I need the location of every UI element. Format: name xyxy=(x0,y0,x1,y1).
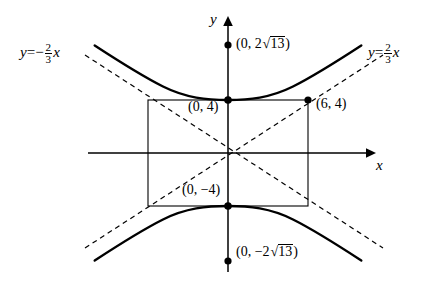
focus-bottom-radical: √13 xyxy=(270,244,294,259)
focus-top-prefix: (0, 2 xyxy=(236,36,262,51)
point-vertex-bottom xyxy=(224,202,232,210)
focus-bottom-prefix: (0, −2 xyxy=(236,244,270,259)
asymptote-left-fraction: 2 3 xyxy=(45,42,53,66)
asymptote-right-numerator: 2 xyxy=(384,42,392,53)
focus-top-label: (0, 2√13) xyxy=(236,36,290,51)
focus-bottom-suffix: ) xyxy=(293,244,298,259)
point-focus-top xyxy=(224,41,231,48)
y-axis-arrowhead xyxy=(223,16,233,26)
asymptote-left-lhs: y xyxy=(20,44,27,60)
asymptote-left-numerator: 2 xyxy=(45,42,53,53)
focus-top-suffix: ) xyxy=(285,36,290,51)
y-axis-label: y xyxy=(210,12,217,27)
hyperbola-figure: y=− 2 3 x y= 2 3 x y x (0, 2√13) (0, −2√… xyxy=(0,0,445,281)
asymptote-left-variable: x xyxy=(53,44,60,60)
point-vertex-top xyxy=(224,96,232,104)
vertex-bottom-label: (0, −4) xyxy=(182,183,220,197)
x-axis-arrowhead xyxy=(366,148,376,158)
asymptote-left-equals: = xyxy=(27,44,35,60)
focus-top-radical: √13 xyxy=(262,36,286,51)
asymptote-right-variable: x xyxy=(393,44,400,60)
focus-top-radicand: 13 xyxy=(270,36,286,51)
asymptote-right-fraction: 2 3 xyxy=(384,42,392,66)
asymptote-right-lhs: y xyxy=(368,44,375,60)
asymptote-left-denominator: 3 xyxy=(45,53,53,65)
asymptote-right-label: y= 2 3 x xyxy=(368,42,399,66)
point-focus-bottom xyxy=(224,257,231,264)
point-rectangle-corner xyxy=(304,96,311,103)
asymptote-left-label: y=− 2 3 x xyxy=(20,42,60,66)
asymptote-left-sign: − xyxy=(35,44,43,60)
focus-bottom-label: (0, −2√13) xyxy=(236,244,298,259)
asymptote-right-denominator: 3 xyxy=(384,53,392,65)
x-axis-label: x xyxy=(376,158,383,173)
focus-bottom-radicand: 13 xyxy=(278,244,294,259)
rectangle-corner-label: (6, 4) xyxy=(316,97,346,111)
vertex-top-label: (0, 4) xyxy=(188,100,218,114)
asymptote-right-equals: = xyxy=(375,44,383,60)
